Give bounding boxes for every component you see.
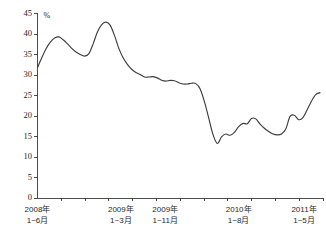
y-tick-label: 15 — [24, 131, 33, 141]
x-axis — [38, 198, 324, 201]
plot-area — [38, 22, 321, 143]
y-tick-label: 0 — [28, 192, 32, 202]
y-axis-unit-label: % — [44, 11, 51, 20]
x-tick-label-months: 1~8月 — [228, 216, 250, 225]
x-tick-label-year: 2008年 — [25, 204, 51, 214]
y-tick-label: 5 — [28, 172, 32, 182]
x-tick-label-year: 2009年 — [152, 204, 178, 214]
line-chart: 051015202530354045%2008年1~6月2009年1~3月200… — [0, 0, 326, 243]
y-tick-label: 40 — [24, 28, 33, 38]
x-tick-label-months: 1~11月 — [152, 216, 177, 225]
data-series-line — [38, 22, 321, 143]
y-tick-label: 25 — [24, 90, 33, 100]
y-tick-label: 10 — [24, 151, 33, 161]
y-axis — [34, 13, 37, 198]
y-tick-label: 45 — [24, 8, 33, 18]
axis-labels: 051015202530354045%2008年1~6月2009年1~3月200… — [24, 8, 317, 225]
chart-canvas: 051015202530354045%2008年1~6月2009年1~3月200… — [0, 0, 326, 243]
x-tick-label-months: 1~6月 — [27, 216, 49, 225]
x-tick-label-year: 2010年 — [226, 204, 252, 214]
x-tick-label-year: 2009年 — [108, 204, 134, 214]
x-tick-label-months: 1~3月 — [110, 216, 132, 225]
x-tick-label-months: 1~5月 — [293, 216, 315, 225]
y-tick-label: 20 — [24, 110, 33, 120]
y-tick-label: 35 — [24, 49, 33, 59]
y-tick-label: 30 — [24, 69, 33, 79]
x-tick-label-year: 2011年 — [291, 204, 316, 214]
